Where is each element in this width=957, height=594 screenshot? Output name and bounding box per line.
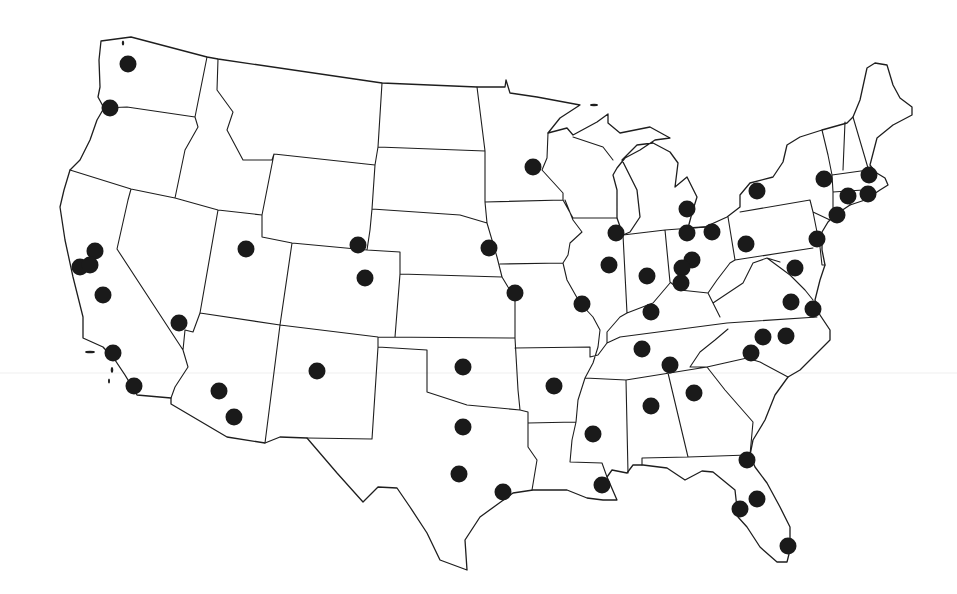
city-marker (211, 383, 228, 400)
city-marker (674, 260, 691, 277)
city-marker (451, 466, 468, 483)
city-marker (643, 398, 660, 415)
city-marker (309, 363, 326, 380)
city-marker (350, 237, 367, 254)
city-marker (662, 357, 679, 374)
city-marker (82, 257, 99, 274)
city-marker (673, 275, 690, 292)
city-marker (780, 538, 797, 555)
city-marker (738, 236, 755, 253)
city-marker (546, 378, 563, 395)
channel-island (108, 379, 110, 384)
city-marker (816, 171, 833, 188)
city-marker (171, 315, 188, 332)
city-marker (704, 224, 721, 241)
city-marker (686, 385, 703, 402)
city-marker (732, 501, 749, 518)
city-marker (95, 287, 112, 304)
puget-island (122, 41, 124, 46)
city-marker (743, 345, 760, 362)
city-marker (608, 225, 625, 242)
city-marker (749, 491, 766, 508)
city-marker (238, 241, 255, 258)
city-marker (840, 188, 857, 205)
city-marker (601, 257, 618, 274)
city-marker (120, 56, 137, 73)
city-marker (594, 477, 611, 494)
channel-island (85, 351, 95, 354)
city-marker (755, 329, 772, 346)
city-marker (102, 100, 119, 117)
city-marker (809, 231, 826, 248)
city-marker (525, 159, 542, 176)
city-marker (829, 207, 846, 224)
city-marker (357, 270, 374, 287)
city-marker (805, 301, 822, 318)
city-marker (126, 378, 143, 395)
city-marker (574, 296, 591, 313)
city-marker (634, 341, 651, 358)
us-map-figure (0, 0, 957, 594)
us-states-map (0, 0, 957, 594)
city-marker (481, 240, 498, 257)
channel-island (111, 367, 114, 373)
city-marker (787, 260, 804, 277)
city-markers-layer (72, 56, 878, 555)
city-marker (739, 452, 756, 469)
city-marker (639, 268, 656, 285)
city-marker (643, 304, 660, 321)
city-marker (783, 294, 800, 311)
city-marker (679, 201, 696, 218)
city-marker (507, 285, 524, 302)
isle-royale (590, 104, 598, 106)
city-marker (860, 186, 877, 203)
city-marker (455, 359, 472, 376)
city-marker (226, 409, 243, 426)
city-marker (105, 345, 122, 362)
city-marker (861, 167, 878, 184)
city-marker (679, 225, 696, 242)
city-marker (495, 484, 512, 501)
city-marker (585, 426, 602, 443)
city-marker (455, 419, 472, 436)
city-marker (778, 328, 795, 345)
city-marker (749, 183, 766, 200)
